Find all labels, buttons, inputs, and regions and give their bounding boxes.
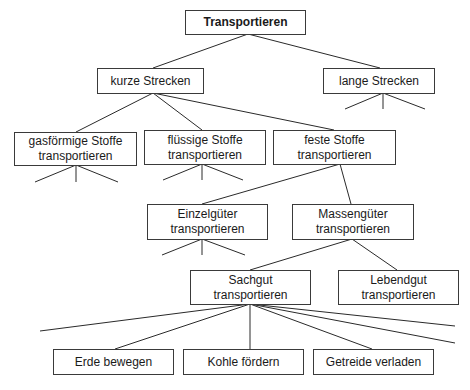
- node-lebendgut: Lebendgut transportieren: [338, 270, 459, 305]
- node-label-line2: transportieren: [297, 148, 371, 163]
- node-kohle-foerdern: Kohle fördern: [183, 349, 304, 375]
- node-sachgut: Sachgut transportieren: [190, 270, 311, 305]
- node-label-line2: transportieren: [168, 148, 242, 163]
- node-label: Transportieren: [203, 15, 287, 30]
- node-gasfoermige-stoffe: gasförmige Stoffe transportieren: [14, 132, 137, 166]
- node-label: Kohle fördern: [207, 355, 279, 370]
- node-label: lange Strecken: [339, 74, 419, 89]
- node-label-line2: transportieren: [170, 222, 244, 237]
- node-label-line1: Massengüter: [318, 207, 387, 222]
- node-label-line2: transportieren: [38, 149, 112, 164]
- node-label: kurze Strecken: [110, 74, 190, 89]
- node-transportieren: Transportieren: [185, 10, 306, 35]
- node-label-line2: transportieren: [213, 288, 287, 303]
- node-feste-stoffe: feste Stoffe transportieren: [273, 130, 396, 165]
- node-label-line1: flüssige Stoffe: [167, 133, 242, 148]
- node-label: Getreide verladen: [326, 355, 421, 370]
- node-label-line1: gasförmige Stoffe: [29, 134, 123, 149]
- node-kurze-strecken: kurze Strecken: [97, 68, 204, 94]
- tree-edges: [0, 0, 470, 390]
- node-label-line1: feste Stoffe: [304, 133, 365, 148]
- node-einzelgueter: Einzelgüter transportieren: [147, 204, 268, 240]
- node-fluessige-stoffe: flüssige Stoffe transportieren: [144, 130, 266, 165]
- node-label-line1: Sachgut: [228, 273, 272, 288]
- node-erde-bewegen: Erde bewegen: [53, 349, 174, 375]
- node-label-line2: transportieren: [361, 288, 435, 303]
- node-getreide-verladen: Getreide verladen: [313, 349, 434, 375]
- node-lange-strecken: lange Strecken: [323, 68, 435, 94]
- node-label-line1: Einzelgüter: [177, 207, 237, 222]
- node-massengueter: Massengüter transportieren: [292, 204, 414, 240]
- node-label-line2: transportieren: [316, 222, 390, 237]
- node-label-line1: Lebendgut: [370, 273, 427, 288]
- node-label: Erde bewegen: [75, 355, 152, 370]
